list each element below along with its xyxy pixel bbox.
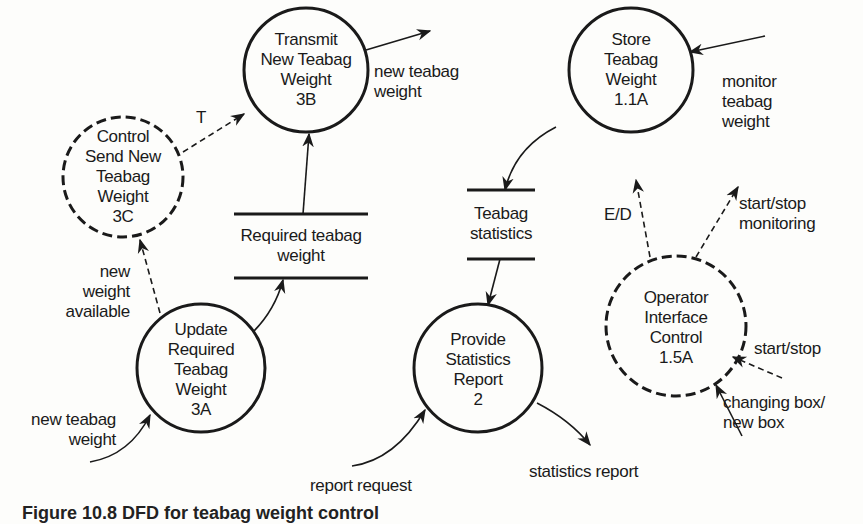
flow-label-statistics-report: statistics report xyxy=(529,462,638,482)
flow-label-ed: E/D xyxy=(604,205,631,225)
process-3b-label: Transmit New Teabag Weight 3B xyxy=(246,30,366,110)
figure-caption: Figure 10.8 DFD for teabag weight contro… xyxy=(22,503,379,524)
flow-label-report-request: report request xyxy=(310,476,412,496)
flow-start-stop-in xyxy=(733,357,782,378)
flow-label-monitor-teabag-weight: monitor teabag weight xyxy=(722,72,777,132)
flow-monitor-teabag-weight xyxy=(690,36,765,52)
flow-label-changing-box: changing box/ new box xyxy=(723,393,825,433)
flow-store-to-3b xyxy=(303,134,309,214)
flow-new-weight-available xyxy=(140,240,160,313)
flow-label-new-teabag-weight-in: new teabag weight xyxy=(20,410,116,450)
flow-report-request xyxy=(352,410,425,466)
process-2-label: Provide Statistics Report 2 xyxy=(423,330,533,410)
flow-start-stop-monitoring xyxy=(696,187,738,257)
process-1-1a-label: Store Teabag Weight 1.1A xyxy=(581,30,681,110)
process-3a-label: Update Required Teabag Weight 3A xyxy=(151,320,251,420)
flow-statistics-report xyxy=(537,403,590,445)
flow-label-new-teabag-weight-out: new teabag weight xyxy=(374,62,459,102)
process-3c-label: Control Send New Teabag Weight 3C xyxy=(73,127,173,227)
flow-ed xyxy=(636,180,650,257)
flow-statistics-to-report xyxy=(488,259,500,305)
flow-label-start-stop-in: start/stop xyxy=(754,339,821,359)
store-required-teabag-weight-label: Required teabag weight xyxy=(230,226,372,266)
flow-new-teabag-weight-out xyxy=(366,31,430,50)
flow-3a-to-store xyxy=(253,280,283,332)
store-teabag-statistics-label: Teabag statistics xyxy=(460,204,542,244)
flow-store-to-statistics xyxy=(505,127,556,190)
flow-label-start-stop-monitoring: start/stop monitoring xyxy=(739,194,815,234)
flow-label-t: T xyxy=(196,108,206,128)
flow-label-new-weight-available: new weight available xyxy=(50,262,130,322)
process-1-5a-label: Operator Interface Control 1.5A xyxy=(621,288,731,368)
flow-t xyxy=(183,114,244,152)
